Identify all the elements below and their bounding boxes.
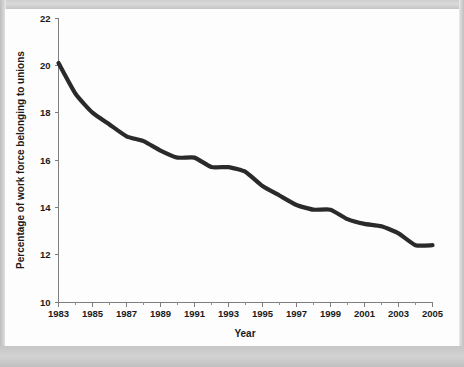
x-tick-label: 1989 [150,308,171,319]
y-axis-ticks: 10121416182022 [40,13,59,308]
x-tick-label: 1997 [286,308,307,319]
chart-axes [59,18,433,303]
y-tick-label: 12 [40,249,51,260]
y-tick-label: 18 [40,107,51,118]
page-scan-bottom-band [0,346,464,367]
y-tick-label: 22 [40,13,51,24]
x-tick-label: 1987 [116,308,137,319]
data-series-line [59,63,433,246]
y-tick-label: 14 [40,202,51,213]
x-tick-label: 1993 [218,308,239,319]
x-tick-label: 2005 [422,308,444,319]
x-tick-label: 1991 [184,308,206,319]
y-tick-label: 10 [40,297,51,308]
x-axis-title: Year [234,328,255,339]
line-chart-canvas: 10121416182022 1983198519871989199119931… [5,9,459,346]
chart-figure: 10121416182022 1983198519871989199119931… [5,9,459,346]
x-tick-label: 1995 [252,308,274,319]
x-tick-label: 2001 [354,308,376,319]
x-tick-label: 2003 [388,308,409,319]
y-tick-label: 20 [40,60,51,71]
x-tick-label: 1999 [320,308,341,319]
x-tick-label: 1983 [48,308,69,319]
y-axis-title: Percentage of work force belonging to un… [15,51,26,269]
page-scan-right-edge [459,0,464,367]
x-tick-label: 1985 [82,308,104,319]
page-scan-top-band [0,0,464,9]
scanned-page: 10121416182022 1983198519871989199119931… [0,0,464,367]
y-tick-label: 16 [40,155,51,166]
